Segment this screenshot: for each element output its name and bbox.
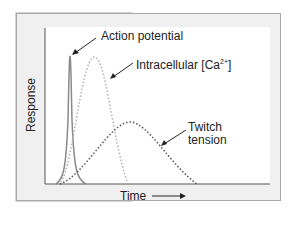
calcium-label-prefix: Intracellular [Ca [136,58,220,72]
twitch-label-line2: tension [188,134,227,147]
action-potential-label: Action potential [101,30,183,43]
calcium-label-suffix: ] [228,58,231,72]
y-axis-label: Response [24,78,38,132]
x-axis-label: Time [120,190,146,203]
calcium-label-sup: 2+ [220,58,228,65]
calcium-label: Intracellular [Ca2+] [136,55,231,72]
